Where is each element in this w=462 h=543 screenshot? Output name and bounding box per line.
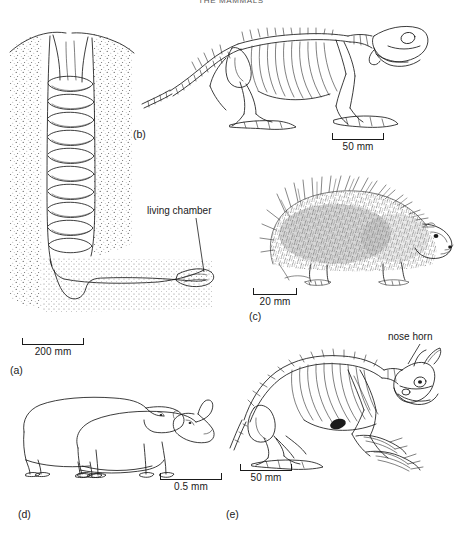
panel-c-porcupine	[255, 172, 455, 287]
rhinoceros-outline-illustration	[18, 382, 228, 487]
scale-bar-d-label: 0.5 mm	[160, 481, 222, 492]
leader-line-living-chamber	[193, 218, 209, 274]
scale-bar-b: 50 mm	[332, 133, 384, 152]
scale-bar-d: 0.5 mm	[160, 473, 222, 492]
panel-label-d: (d)	[18, 508, 31, 520]
scale-bar-a: 200 mm	[22, 338, 84, 357]
porcupine-illustration	[255, 172, 455, 287]
panel-label-c: (c)	[249, 310, 261, 322]
running-head: THE MAMMALS	[0, 0, 462, 5]
scale-bar-c-label: 20 mm	[253, 296, 297, 307]
panel-b-beaver-skeleton	[140, 8, 430, 128]
figure-plate: THE MAMMALS	[0, 0, 462, 543]
scale-bar-b-label: 50 mm	[332, 141, 384, 152]
panel-label-e: (e)	[226, 508, 239, 520]
annotation-living-chamber: living chamber	[147, 205, 211, 216]
scale-bar-e-label: 50 mm	[240, 472, 292, 483]
scale-bar-c: 20 mm	[253, 288, 297, 307]
scale-bar-e: 50 mm	[240, 464, 292, 483]
annotation-nose-horn: nose horn	[388, 331, 432, 342]
panel-label-a: (a)	[10, 364, 23, 376]
panel-label-b: (b)	[133, 128, 146, 140]
beaver-skeleton-illustration	[140, 8, 430, 128]
leader-line-nose-horn	[404, 344, 426, 366]
panel-d-rhinoceros-outlines	[18, 382, 228, 487]
scale-bar-a-label: 200 mm	[22, 346, 84, 357]
